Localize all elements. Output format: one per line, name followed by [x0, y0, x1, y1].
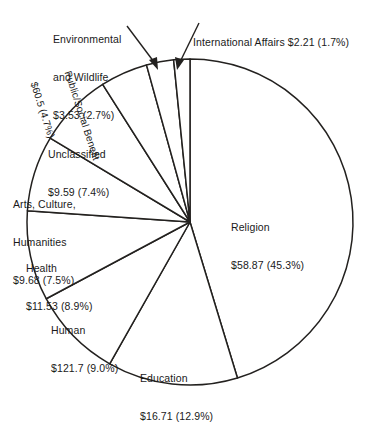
slice-label-international-affairs: International Affairs $2.21 (1.7%) [193, 11, 349, 74]
label-line-1: Arts, Culture, [13, 198, 76, 211]
label-line-1: Human [51, 324, 118, 337]
label-line-2: $58.87 (45.3%) [231, 259, 304, 272]
label-line-1: International Affairs $2.21 (1.7%) [193, 36, 349, 49]
label-line-2: $16.71 (12.9%) [140, 410, 213, 423]
leader-line-environmental [127, 26, 154, 62]
label-line-2: $121.7 (9.0%) [51, 362, 118, 375]
slice-label-education: Education $16.71 (12.9%) [140, 347, 213, 426]
label-line-1: Health [26, 262, 92, 275]
slice-label-religion: Religion $58.87 (45.3%) [231, 196, 304, 297]
label-line-1: Unclassified [48, 148, 109, 161]
label-line-1: Religion [231, 221, 304, 234]
slice-label-human: Human $121.7 (9.0%) [51, 299, 118, 400]
label-line-1: Education [140, 372, 213, 385]
label-line-1: Environmental [53, 33, 121, 46]
